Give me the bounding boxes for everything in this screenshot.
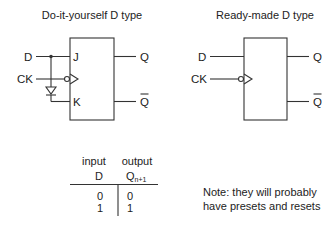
table-cell-d: 1 [97, 202, 103, 214]
d-label: D [198, 51, 206, 63]
output-col-subscript: n+1 [135, 176, 147, 183]
clock-bubble-icon [239, 77, 244, 82]
d-label: D [24, 51, 32, 63]
q-label: Q [140, 51, 149, 63]
k-label: K [73, 96, 81, 108]
input-col-header: D [95, 170, 103, 182]
clock-bubble-icon [65, 77, 70, 82]
clock-triangle-icon [70, 74, 78, 84]
note-line-1: Note: they will probably [203, 186, 317, 198]
q-label: Q [313, 51, 322, 63]
right-title: Ready-made D type [216, 9, 314, 21]
truth-table: input output D Q n+1 0 0 1 1 [70, 155, 158, 216]
j-label: J [73, 51, 79, 63]
diy-d-type-circuit: D CK J K Q Q [17, 38, 149, 120]
output-group-header: output [122, 155, 153, 167]
clock-triangle-icon [244, 74, 252, 84]
table-cell-d: 0 [97, 190, 103, 202]
d-flip-flop-box [244, 38, 287, 120]
input-group-header: input [82, 155, 106, 167]
qbar-label: Q [313, 96, 322, 108]
ready-made-d-type-circuit: D CK Q Q [191, 38, 322, 120]
diode-triangle-icon [46, 87, 56, 94]
diagram-canvas: Do-it-yourself D type Ready-made D type … [0, 0, 333, 233]
ck-label: CK [17, 73, 33, 85]
table-cell-q: 1 [127, 202, 133, 214]
ck-label: CK [191, 73, 207, 85]
note-line-2: have presets and resets [203, 200, 321, 212]
table-cell-q: 0 [127, 190, 133, 202]
left-title: Do-it-yourself D type [42, 9, 142, 21]
qbar-label: Q [140, 96, 149, 108]
